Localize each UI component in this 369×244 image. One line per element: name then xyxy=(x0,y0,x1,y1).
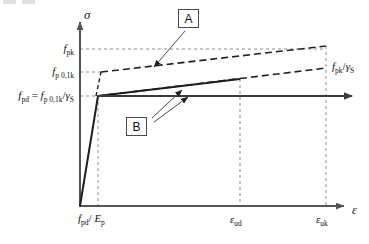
y-tick-label-fp01k: fp 0,1k xyxy=(14,66,74,77)
y-axis-symbol: σ xyxy=(84,8,90,21)
curve-design-horizontal-arrowhead xyxy=(344,92,353,100)
curve-characteristic-riser xyxy=(96,72,101,96)
curve-design-inclined xyxy=(98,79,240,96)
curves xyxy=(80,46,353,206)
fpd-main-sub: pd xyxy=(21,95,29,104)
xel-f-sub: pd xyxy=(81,218,89,227)
curve-elastic-branch xyxy=(80,96,98,206)
y-tick-label-fpk: fpk xyxy=(34,43,74,54)
epsud-sub: ud xyxy=(234,219,242,228)
xel-E-sub: p xyxy=(101,218,105,227)
x-tick-label-eps-ud: εud xyxy=(230,214,242,225)
fp01k-sub: p 0,1k xyxy=(55,71,74,80)
fpd-num-sub: p 0,1k xyxy=(44,95,63,104)
axes xyxy=(80,22,344,206)
x-tick-label-eps-uk: εuk xyxy=(316,214,328,225)
callout-a-label: A xyxy=(184,12,192,26)
x-tick-label-elastic-strain: fpd/ Ep xyxy=(78,213,105,224)
callout-box-a[interactable]: A xyxy=(178,9,199,28)
x-axis-symbol: ε xyxy=(352,204,357,216)
curve-idealised-characteristic xyxy=(101,46,326,72)
sigma-glyph: σ xyxy=(84,7,90,22)
callout-b-label: B xyxy=(132,120,140,134)
callout-leaders xyxy=(152,31,188,122)
fpkg-gamma-sub: S xyxy=(350,66,354,75)
callout-box-b[interactable]: B xyxy=(126,117,147,136)
fpd-gamma-sub: S xyxy=(70,95,74,104)
fpd-equals: = xyxy=(29,89,41,101)
epsilon-glyph: ε xyxy=(352,203,357,217)
diagram-canvas xyxy=(0,0,369,244)
curve-label-fpk-gammas: fpk/γS xyxy=(332,61,354,72)
fpkg-sub: pk xyxy=(335,66,343,75)
y-tick-label-fpd: fpd = fp 0,1k/γS xyxy=(0,90,74,101)
fpk-sub: pk xyxy=(67,48,75,57)
epsuk-sub: uk xyxy=(320,219,328,228)
stress-strain-figure: A B σ ε fpk fp 0,1k fpd = fp 0,1k/γS fpk… xyxy=(0,0,369,244)
leader-B-to-design-inclined xyxy=(152,90,182,118)
